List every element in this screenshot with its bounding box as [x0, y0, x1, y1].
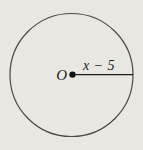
center-point-dot — [69, 71, 75, 77]
diagram-canvas: O x − 5 — [0, 0, 143, 150]
radius-label: x − 5 — [82, 58, 115, 73]
center-label: O — [56, 67, 67, 83]
circle-diagram: O x − 5 — [0, 0, 143, 150]
